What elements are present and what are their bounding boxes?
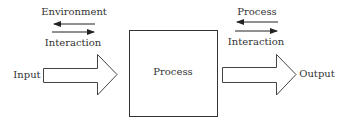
input-block-arrow-icon xyxy=(44,55,118,96)
environment-label: Environment xyxy=(41,6,107,18)
process-interaction-label: Process xyxy=(237,6,276,18)
input-label: Input xyxy=(13,69,40,81)
diagram-canvas xyxy=(0,0,348,121)
output-block-arrow-icon xyxy=(223,55,297,96)
process-label: Process xyxy=(153,66,192,78)
interaction-label-right: Interaction xyxy=(228,36,284,48)
interaction-label-left: Interaction xyxy=(45,37,101,49)
output-label: Output xyxy=(299,68,335,80)
